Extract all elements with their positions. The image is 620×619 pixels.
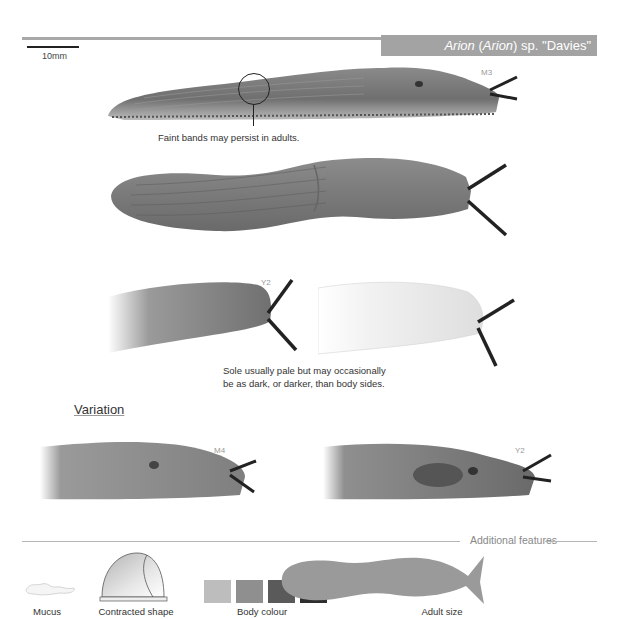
variation-tag: M4 [214,446,225,455]
contracted-shape-label: Contracted shape [96,606,176,617]
scale-bar [27,46,79,48]
title-subgenus: Arion [483,38,513,53]
species-title: Arion (Arion) sp. "Davies" [381,35,597,56]
additional-divider [22,541,460,542]
title-genus: Arion [444,38,474,53]
additional-heading: Additional features [470,534,557,546]
slug-sole-dark-image [108,275,303,355]
variation-image-1 [40,437,260,502]
scale-label: 10mm [42,51,67,61]
title-rest: sp. "Davies" [521,38,591,53]
additional-divider-end [545,541,597,542]
adult-size-silhouette [280,552,485,608]
caption-bands: Faint bands may persist in adults. [158,131,300,144]
body-colour-swatch-pale [204,580,231,603]
variation-heading: Variation [74,402,124,417]
title-subgenus-wrap: (Arion) [478,38,517,53]
mucus-icon [24,578,79,598]
highlight-circle [238,73,270,105]
variation-tag: Y2 [515,446,525,455]
caption-sole: Sole usually pale but may occasionally b… [223,364,386,390]
specimen-tag: Y2 [261,278,271,287]
callout-line [253,104,254,126]
adult-size-label: Adult size [412,606,472,617]
mucus-label: Mucus [22,606,72,617]
slug-side-view-image [104,54,524,124]
caption-sole-line2: be as dark, or darker, than body sides. [223,377,386,390]
specimen-tag: M3 [481,68,492,77]
slug-sole-pale-image [318,278,518,368]
contracted-shape-icon [99,551,169,604]
caption-sole-line1: Sole usually pale but may occasionally [223,364,386,377]
body-colour-swatch-mid [236,580,263,603]
slug-top-view-image [106,151,516,246]
